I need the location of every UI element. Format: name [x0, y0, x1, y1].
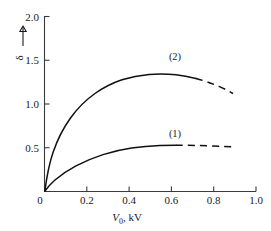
y-tick-label-1.0: 1.0 [25, 98, 39, 110]
x-tick-label-0.2: 0.2 [80, 194, 94, 206]
x-tick-label-1.0: 1.0 [249, 194, 263, 206]
curve-1-annotation: (1) [169, 128, 182, 140]
x-axis-title-unit: , kV [123, 211, 142, 223]
y-tick-label-2: 2.0 [25, 11, 39, 23]
chart-svg: 2.0 1.5 1.0 0.5 0 0.2 0.4 0.6 0.8 1.0 V0… [0, 0, 271, 231]
curve-2-annotation: (2) [169, 51, 182, 63]
y-tick-label-1.5: 1.5 [25, 54, 39, 66]
x-tick-label-0.6: 0.6 [165, 194, 179, 206]
x-tick-label-0.8: 0.8 [207, 194, 221, 206]
origin-tick-label: 0 [37, 194, 43, 206]
x-tick-label-0.4: 0.4 [122, 194, 136, 206]
y-axis-title-label: δ [13, 55, 25, 60]
y-tick-label-0.5: 0.5 [25, 142, 39, 154]
chart-figure: 2.0 1.5 1.0 0.5 0 0.2 0.4 0.6 0.8 1.0 V0… [0, 0, 271, 231]
